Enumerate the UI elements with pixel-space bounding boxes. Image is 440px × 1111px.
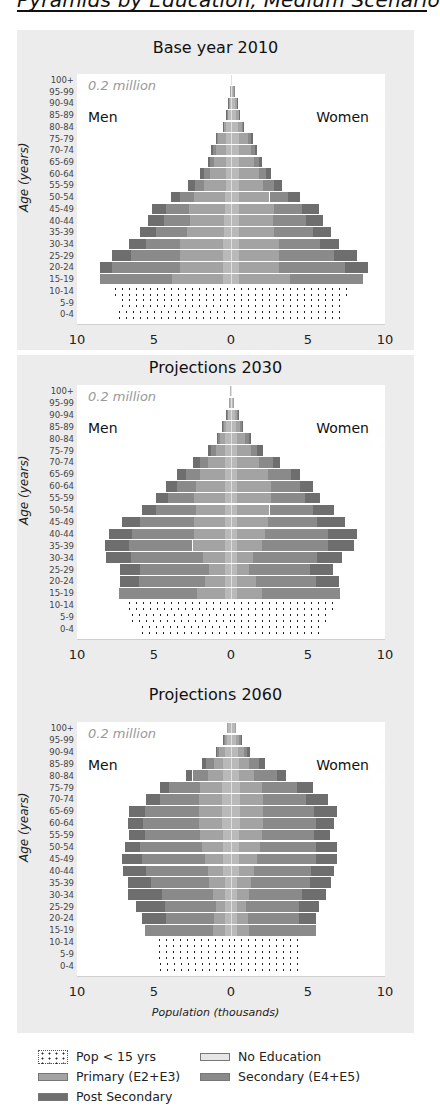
noedu-segment [231,274,239,284]
child-dots-segment [231,309,342,319]
prim-segment [237,481,271,492]
x-tick-label: 5 [304,984,312,999]
age-label: 75-79 [49,783,74,793]
legend-label: Secondary (E4+E5) [238,1069,360,1084]
sec-segment [251,877,310,888]
age-label: 90-94 [49,410,74,420]
age-label: 60-64 [49,481,74,491]
sec-segment [254,770,277,781]
prim-segment [237,564,249,575]
title-rule [17,10,427,12]
sec-segment [279,250,334,260]
prim-segment [240,782,262,793]
post-segment [300,481,312,492]
post-segment [291,469,300,480]
sec-segment [254,866,311,877]
sec-segment [262,830,314,841]
x-tick-label: 10 [69,647,86,662]
age-label: 75-79 [49,134,74,144]
post-segment [259,758,265,769]
x-tick-label: 10 [377,647,394,662]
age-label: 5-9 [60,612,74,622]
age-label: 80-84 [49,434,74,444]
noedu-segment [231,262,239,272]
sec-segment [265,529,328,540]
post-segment [277,770,286,781]
prim-segment [237,457,259,468]
post-segment [316,854,338,865]
age-label: 10-14 [49,937,74,947]
noedu-segment [231,758,239,769]
noedu-segment [231,866,239,877]
prim-segment [237,445,251,456]
post-segment [328,540,354,551]
age-label: 0-4 [60,624,74,634]
age-label: 45-49 [49,517,74,527]
prim-segment [239,866,254,877]
prim-segment [240,794,263,805]
prim-segment [237,901,246,912]
post-segment [259,157,262,167]
post-segment [311,866,334,877]
noedu-segment [231,747,238,758]
age-label: 35-39 [49,541,74,551]
prim-segment [237,877,251,888]
noedu-segment [231,168,239,178]
chart-title: Projections 2030 [17,358,414,377]
age-label: 50-54 [49,842,74,852]
prim-segment [237,529,265,540]
prim-segment [239,180,264,190]
x-tick-label: 10 [69,984,86,999]
noedu-segment [231,770,239,781]
post-segment [273,457,281,468]
age-label: 25-29 [49,902,74,912]
x-tick-label: 0 [227,332,235,347]
post-segment [266,168,271,178]
age-label: 60-64 [49,169,74,179]
age-label: 100+ [51,75,74,85]
sec-segment [268,517,317,528]
age-label: 40-44 [49,866,74,876]
prim-segment [239,204,274,214]
sec-segment [249,889,301,900]
prim-segment [239,250,279,260]
prim-segment [239,168,259,178]
age-label: 15-19 [49,588,74,598]
prim-segment [237,576,255,587]
legend-item-secondary: Secondary (E4+E5) [200,1069,360,1084]
age-label: 20-24 [49,913,74,923]
plot-area: 0.2 millionMenWomen [77,74,385,324]
noedu-segment [231,133,239,143]
sec-segment [270,192,288,202]
age-label: 25-29 [49,565,74,575]
noedu-segment [231,145,239,155]
post-segment [320,239,338,249]
post-segment [288,192,300,202]
x-tick-label: 0 [227,647,235,662]
prim-segment [237,588,262,599]
sec-segment [249,925,315,936]
post-segment [247,747,250,758]
prim-segment [239,227,274,237]
center-line [231,385,232,635]
sec-segment [246,901,298,912]
post-segment [316,576,339,587]
post-segment [328,529,357,540]
age-label: 10-14 [49,286,74,296]
prim-segment [237,517,268,528]
child-dots-segment [231,286,351,296]
prim-segment [237,505,269,516]
noedu-segment [231,250,239,260]
legend-item-child: Pop < 15 yrs [38,1049,156,1064]
age-label: 65-69 [49,806,74,816]
sec-segment [263,180,274,190]
pyramid-panel-1: Projections 2030100+95-9990-9485-8980-84… [17,355,414,665]
sec-segment [249,564,309,575]
prim-segment [237,925,249,936]
sec-segment [257,854,316,865]
post-segment [314,830,329,841]
age-label: 45-49 [49,204,74,214]
prim-segment [239,854,257,865]
age-label: 65-69 [49,469,74,479]
age-label: 50-54 [49,505,74,515]
